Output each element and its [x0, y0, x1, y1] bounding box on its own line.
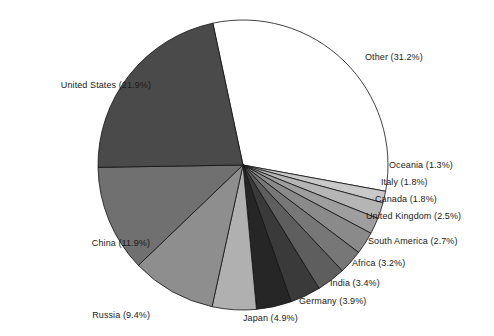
pie-label-japan: Japan (4.9%)	[243, 313, 298, 324]
pie-label-india: India (3.4%)	[330, 278, 380, 289]
pie-label-china: China (11.9%)	[92, 238, 150, 249]
pie-label-italy: Italy (1.8%)	[381, 177, 428, 188]
pie-label-south-america: South America (2.7%)	[368, 236, 458, 247]
pie-label-russia: Russia (9.4%)	[92, 310, 150, 321]
pie-label-canada: Canada (1.8%)	[375, 194, 437, 205]
pie-slice-group	[98, 20, 388, 310]
pie-label-africa: Africa (3.2%)	[352, 258, 405, 269]
pie-label-oceania: Oceania (1.3%)	[389, 160, 453, 171]
pie-chart-figure: Other (31.2%) Oceania (1.3%) Italy (1.8%…	[0, 0, 494, 336]
pie-label-other: Other (31.2%)	[365, 52, 423, 63]
pie-label-germany: Germany (3.9%)	[299, 296, 366, 307]
pie-label-united-states: United States (21.9%)	[61, 80, 151, 91]
pie-label-united-kingdom: United Kingdom (2.5%)	[366, 211, 461, 222]
